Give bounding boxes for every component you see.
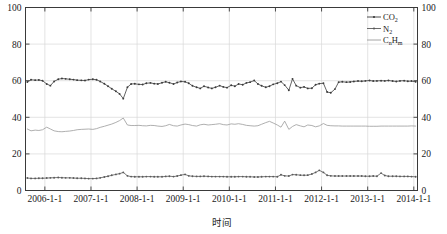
data-point <box>315 84 317 86</box>
data-point <box>76 79 78 81</box>
data-point <box>130 176 132 178</box>
data-point <box>353 175 355 177</box>
data-point <box>92 78 94 80</box>
data-point <box>153 83 155 85</box>
y-tick-label-left: 100 <box>7 3 22 13</box>
data-point <box>407 175 409 177</box>
data-point <box>272 83 274 85</box>
data-point <box>168 175 170 177</box>
y-tick-label-left: 0 <box>17 186 22 196</box>
data-point <box>30 177 32 179</box>
data-point <box>288 175 290 177</box>
data-point <box>280 81 282 83</box>
data-point <box>322 82 324 84</box>
data-point <box>303 174 305 176</box>
data-point <box>34 177 36 179</box>
data-point <box>88 79 90 81</box>
data-point <box>46 83 48 85</box>
data-point <box>288 89 290 91</box>
data-point <box>173 176 175 178</box>
data-point <box>84 177 86 179</box>
data-point <box>111 174 113 176</box>
data-point <box>322 171 324 173</box>
series-path <box>27 170 415 178</box>
data-point <box>411 80 413 82</box>
data-point <box>180 174 182 176</box>
legend: CO2N2CnHm <box>367 12 403 46</box>
data-point <box>284 84 286 86</box>
data-point <box>138 83 140 85</box>
data-point <box>257 83 259 85</box>
data-point <box>318 83 320 85</box>
data-point <box>245 176 247 178</box>
data-point <box>226 176 228 178</box>
data-point <box>299 87 301 89</box>
data-point <box>119 173 121 175</box>
data-point <box>196 86 198 88</box>
data-point <box>211 87 213 89</box>
data-point <box>207 175 209 177</box>
data-point <box>242 176 244 178</box>
data-point <box>253 176 255 178</box>
legend-label-cnhm: CnHm <box>383 35 403 46</box>
data-point <box>253 80 255 82</box>
data-point <box>265 86 267 88</box>
data-point <box>415 176 417 178</box>
data-point <box>69 177 71 179</box>
data-point <box>311 173 313 175</box>
data-point <box>188 82 190 84</box>
data-point <box>65 78 67 80</box>
data-point <box>334 88 336 90</box>
data-point <box>407 80 409 82</box>
data-point <box>157 83 159 85</box>
data-point <box>361 80 363 82</box>
data-point <box>261 176 263 178</box>
x-tick-label: 2006-1-1 <box>27 194 62 204</box>
legend-label-co2: CO2 <box>383 12 398 23</box>
data-point <box>222 176 224 178</box>
data-point <box>395 175 397 177</box>
data-point <box>38 177 40 179</box>
data-point <box>292 174 294 176</box>
data-point <box>168 82 170 84</box>
series-n2 <box>26 169 416 179</box>
data-point <box>411 176 413 178</box>
data-point <box>376 80 378 82</box>
data-point <box>103 83 105 85</box>
data-point <box>361 175 363 177</box>
data-point <box>199 87 201 89</box>
data-point <box>326 174 328 176</box>
data-point <box>130 83 132 85</box>
data-point <box>73 79 75 81</box>
data-point <box>122 171 124 173</box>
data-point <box>196 175 198 177</box>
data-point <box>403 175 405 177</box>
data-point <box>215 176 217 178</box>
y-tick-label-right: 60 <box>422 76 432 86</box>
data-point <box>99 177 101 179</box>
data-point <box>249 176 251 178</box>
data-point <box>403 80 405 82</box>
data-point <box>369 80 371 82</box>
data-point <box>107 85 109 87</box>
data-point <box>122 98 124 100</box>
data-point <box>69 78 71 80</box>
data-point <box>134 83 136 85</box>
data-point <box>222 86 224 88</box>
y-tick-label-left: 20 <box>12 149 22 159</box>
data-point <box>138 176 140 178</box>
data-point <box>219 85 221 87</box>
data-point <box>126 175 128 177</box>
data-point <box>96 177 98 179</box>
data-point <box>369 175 371 177</box>
data-point <box>38 79 40 81</box>
data-point <box>388 80 390 82</box>
data-point <box>392 80 394 82</box>
data-point <box>49 85 51 87</box>
x-tick-label: 2007-1-1 <box>74 194 109 204</box>
data-point <box>176 82 178 84</box>
series-cnhm <box>27 118 415 132</box>
data-point <box>180 80 182 82</box>
data-point <box>142 84 144 86</box>
data-point <box>276 82 278 84</box>
